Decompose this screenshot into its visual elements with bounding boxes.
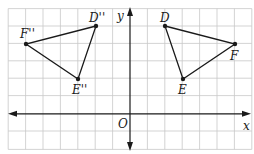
y-axis [127,7,133,151]
x-axis-label: x [243,119,250,133]
y-axis-label: y [116,9,124,23]
x-axis-right-arrow-icon [242,111,251,117]
label-E-double-prime: E'' [71,83,87,97]
point-E [181,77,185,81]
label-F: F [229,49,239,63]
triangle-D2E2F2: D'' F'' E'' [19,11,105,97]
point-F [233,42,237,46]
triangle-DEF: D F E [159,11,239,97]
label-F-double-prime: F'' [19,27,35,41]
origin-label: O [118,117,128,131]
point-F-double-prime [24,42,28,46]
label-D-double-prime: D'' [88,11,105,25]
label-D: D [159,11,170,25]
label-E: E [177,83,187,97]
x-axis-left-arrow-icon [8,111,17,117]
coordinate-plane: y x O D F E D'' F'' E'' [0,0,254,154]
point-E-double-prime [76,77,80,81]
